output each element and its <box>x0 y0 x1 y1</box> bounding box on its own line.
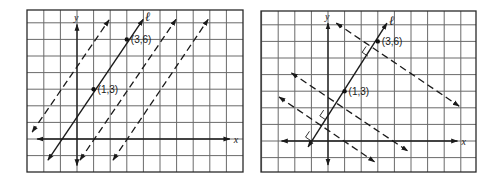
figure-parallel-lines: xyℓ(1,3)(3,6) <box>27 9 243 172</box>
point-label: (3,6) <box>382 36 403 47</box>
point-marker <box>91 87 95 91</box>
point-marker <box>125 37 129 41</box>
point-label: (1,3) <box>98 84 119 95</box>
x-axis-label: x <box>233 134 239 145</box>
point-marker <box>342 89 346 93</box>
line-l-label: ℓ <box>145 9 151 24</box>
diagram-canvas: xyℓ(1,3)(3,6) xyℓ(1,3)(3,6) <box>0 0 503 187</box>
y-axis-label: y <box>324 11 330 22</box>
right-angle-marker <box>320 110 326 120</box>
y-axis-label: y <box>73 12 79 23</box>
point-label: (3,6) <box>131 34 152 45</box>
perpendicular-dashed-3 <box>279 97 374 162</box>
right-angle-marker <box>306 131 312 141</box>
point-label: (1,3) <box>349 86 370 97</box>
figure-perpendicular-lines: xyℓ(1,3)(3,6) <box>261 11 476 172</box>
point-marker <box>376 39 380 43</box>
line-l-label: ℓ <box>389 13 395 28</box>
x-axis-label: x <box>460 136 466 147</box>
